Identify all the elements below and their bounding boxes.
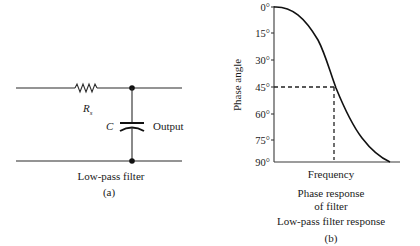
y-tick-label: 75° <box>255 135 270 146</box>
resistor-label: Rs <box>82 102 93 117</box>
panel-b-tag: (b) <box>325 232 338 245</box>
figure: Rs C Output Low-pass filter (a) 0° 15° 3… <box>0 0 420 246</box>
y-tick-label: 0° <box>261 2 270 13</box>
panel-b-caption-line2: of filter <box>314 200 348 212</box>
x-axis-label: Frequency <box>308 168 355 180</box>
phase-curve <box>274 7 390 162</box>
panel-a-caption: Low-pass filter <box>78 170 145 182</box>
y-tick-label: 60° <box>255 109 270 120</box>
phase-response-chart: 0° 15° 30° 45° 60° 75° 90° Phase angle F… <box>231 2 400 245</box>
resistor-icon <box>75 84 97 92</box>
bottom-node-icon <box>129 158 135 164</box>
low-pass-circuit: Rs C Output Low-pass filter (a) <box>16 84 184 199</box>
y-tick-label: 30° <box>255 55 270 66</box>
capacitor-label: C <box>106 120 114 132</box>
y-tick-label: 90° <box>255 157 270 168</box>
panel-b-caption-line1: Phase response <box>298 187 365 199</box>
y-axis-label: Phase angle <box>231 59 243 111</box>
y-tick-label: 45° <box>255 82 270 93</box>
panel-b-caption-line3: Low-pass filter response <box>277 215 385 227</box>
y-tick-labels: 0° 15° 30° 45° 60° 75° 90° <box>255 2 270 168</box>
y-tick-label: 15° <box>255 28 270 39</box>
panel-a-tag: (a) <box>103 186 116 199</box>
output-label: Output <box>153 120 184 132</box>
